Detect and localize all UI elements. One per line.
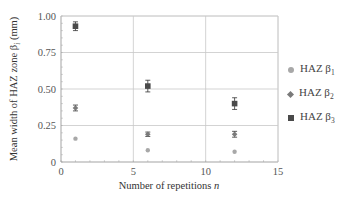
x-tick-label: 10: [200, 166, 211, 177]
legend-label: HAZ β1: [300, 62, 335, 77]
legend-item: HAZ β2: [288, 82, 335, 106]
y-tick-label: 0.50: [38, 84, 56, 95]
x-tick-label: 15: [273, 166, 284, 177]
y-tick-label: 0.75: [38, 47, 56, 58]
circle-marker-icon: [73, 136, 77, 140]
square-marker-icon: [73, 23, 79, 29]
y-tick-label: 0.25: [38, 120, 56, 131]
diamond-marker-icon: [287, 90, 294, 97]
diamond-marker-icon: [232, 131, 238, 137]
y-tick-label: 0: [51, 157, 56, 168]
square-marker-icon: [232, 101, 238, 107]
diamond-marker-icon: [73, 105, 79, 111]
x-tick-label: 0: [58, 166, 63, 177]
legend-item: HAZ β1: [288, 58, 335, 82]
y-axis-label: Mean width of HAZ zone βi (mm): [8, 16, 22, 161]
circle-marker-icon: [146, 148, 150, 152]
tick-labels: 00.250.500.751.00051015: [38, 11, 284, 178]
circle-marker-icon: [232, 150, 236, 154]
legend-label: HAZ β3: [300, 110, 335, 125]
square-marker-icon: [288, 115, 294, 121]
legend-label: HAZ β2: [299, 86, 334, 101]
legend: HAZ β1HAZ β2HAZ β3: [288, 58, 335, 130]
legend-item: HAZ β3: [288, 106, 335, 130]
data-points: [73, 22, 238, 154]
x-axis-label: Number of repetitions n: [119, 180, 220, 191]
y-tick-label: 1.00: [38, 11, 56, 22]
gridlines: [61, 16, 278, 162]
x-tick-label: 5: [131, 166, 136, 177]
circle-marker-icon: [288, 67, 294, 73]
square-marker-icon: [145, 83, 151, 89]
